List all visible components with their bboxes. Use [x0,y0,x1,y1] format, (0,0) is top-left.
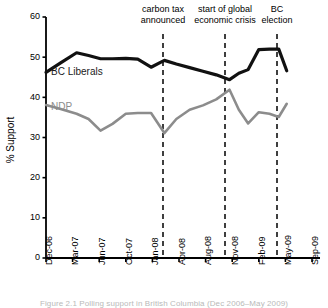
series-label-layer: BC LiberalsNDP [51,66,103,112]
y-axis-title: % Support [5,116,16,163]
x-axis-tick-label: Jan-08 [150,237,160,265]
y-axis-tick-label: 20 [30,172,40,182]
y-axis-tick-label: 50 [30,52,40,62]
x-axis-tick-label: Jun-07 [97,237,107,265]
annotation-label-bc-election: BC [271,4,284,14]
x-axis-tick-label: Apr-08 [177,238,187,265]
x-axis-tick-label: Mar-07 [70,236,80,265]
annotation-label-economic-crisis: start of global [198,4,252,14]
x-axis: Dec-06Mar-07Jun-07Oct-07Jan-08Apr-08Aug-… [44,235,320,265]
x-axis-tick-label: Dec-06 [44,236,54,265]
y-axis-tick-label: 10 [30,212,40,222]
annotation-label-economic-crisis: economic crisis [194,15,256,25]
y-axis-tick-label: 40 [30,92,40,102]
series-label-ndp: NDP [51,101,72,112]
x-axis-tick-label: Nov-08 [230,236,240,265]
y-axis: 0102030405060 [30,11,46,262]
x-axis-tick-label: Feb-09 [257,236,267,265]
figure-caption: Figure 2.1 Polling support in British Co… [0,299,328,308]
x-axis-tick-label: Sep-09 [310,236,320,265]
y-axis-tick-label: 0 [35,252,40,262]
x-axis-tick-label: Oct-07 [124,238,134,265]
x-axis-tick-label: May-09 [283,235,293,265]
annotation-label-carbon-tax: carbon tax [142,4,185,14]
series-label-bc-liberals: BC Liberals [51,66,103,77]
annotation-label-bc-election: election [261,15,292,25]
data-series-layer [46,49,287,133]
y-axis-tick-label: 60 [30,11,40,21]
x-axis-tick-label: Aug-08 [203,236,213,265]
annotation-label-carbon-tax: announced [141,15,186,25]
y-axis-tick-label: 30 [30,132,40,142]
series-line-ndp [46,90,287,133]
